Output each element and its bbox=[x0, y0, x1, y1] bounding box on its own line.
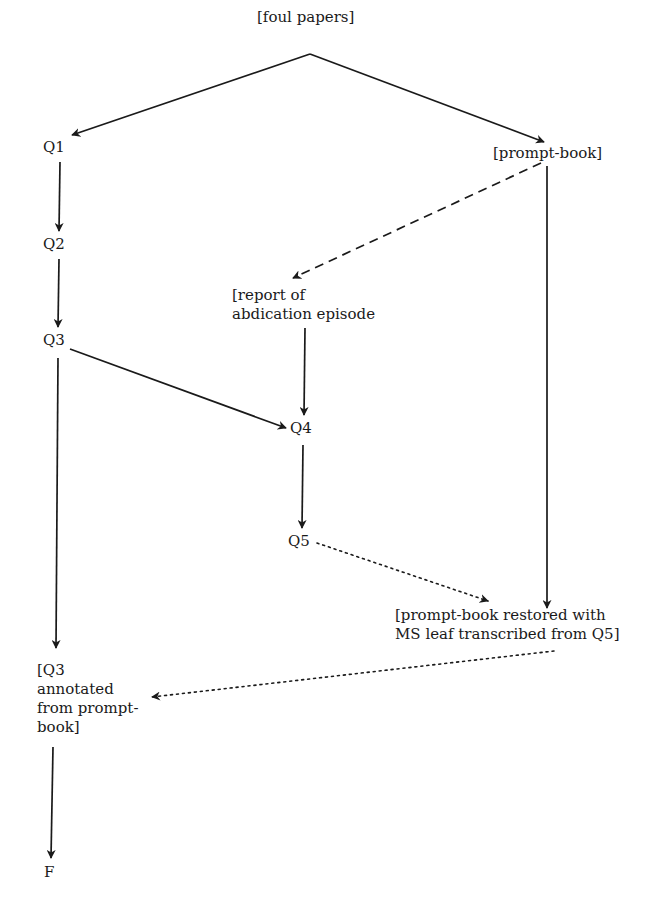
edge-q2-to-q3 bbox=[58, 259, 59, 327]
stemma-diagram: [foul papers] Q1 [prompt-book] Q2 [repor… bbox=[0, 0, 664, 906]
edge-q3-to-q3-annotated bbox=[56, 358, 58, 648]
edge-prompt-book-restored-to-q3-annotated bbox=[152, 651, 554, 697]
edge-foul-papers-to-q1 bbox=[72, 54, 310, 135]
node-q2: Q2 bbox=[43, 235, 65, 254]
node-q4: Q4 bbox=[290, 419, 312, 438]
node-report-abdication: [report of abdication episode bbox=[232, 286, 375, 324]
edge-foul-papers-to-prompt-book bbox=[310, 54, 544, 142]
edge-q1-to-q2 bbox=[59, 162, 60, 231]
node-q5: Q5 bbox=[288, 532, 310, 551]
node-q3-annotated: [Q3 annotated from prompt- book] bbox=[37, 661, 138, 737]
node-q1: Q1 bbox=[43, 138, 65, 157]
edge-q4-to-q5 bbox=[302, 445, 303, 528]
node-q3: Q3 bbox=[43, 331, 65, 350]
node-prompt-book-restored: [prompt-book restored with MS leaf trans… bbox=[395, 606, 620, 644]
edge-q3-annotated-to-f bbox=[51, 747, 53, 858]
node-f: F bbox=[44, 863, 54, 882]
edge-q5-to-prompt-book-restored bbox=[317, 543, 488, 601]
edge-prompt-book-to-report bbox=[293, 163, 541, 278]
edges-layer bbox=[0, 0, 664, 906]
node-prompt-book: [prompt-book] bbox=[493, 144, 602, 163]
edge-report-to-q4 bbox=[304, 328, 305, 415]
node-foul-papers: [foul papers] bbox=[257, 8, 354, 27]
edge-q3-to-q4 bbox=[70, 349, 286, 428]
